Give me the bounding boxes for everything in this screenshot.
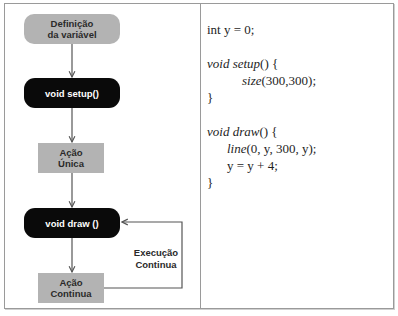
node-acao-continua-line2: Continua — [50, 288, 91, 299]
node-acao-unica-line2: Única — [58, 158, 84, 169]
code-line: } — [207, 174, 316, 191]
code-token: y = y + 4; — [227, 158, 278, 173]
code-token: (300,300); — [262, 73, 317, 88]
code-line: int y = 0; — [207, 21, 316, 38]
node-acao-unica-line1: Ação — [58, 147, 84, 158]
node-void-draw: void draw () — [24, 208, 120, 238]
node-definicao-line1: Definição — [47, 18, 96, 29]
code-line: size(300,300); — [207, 72, 316, 89]
node-draw-label: void draw () — [45, 218, 98, 229]
node-definicao-variavel: Definição da variável — [24, 14, 120, 44]
loop-label: Execução Continua — [128, 247, 184, 271]
code-token: line — [227, 141, 247, 156]
code-line: y = y + 4; — [207, 157, 316, 174]
code-listing: int y = 0;void setup() {size(300,300);}v… — [207, 21, 316, 191]
code-line: void draw() { — [207, 123, 316, 140]
node-void-setup: void setup() — [24, 78, 120, 108]
code-token: void setup — [207, 56, 260, 71]
code-token: } — [207, 175, 213, 190]
code-token: } — [207, 90, 213, 105]
code-line: void setup() { — [207, 55, 316, 72]
node-acao-unica: Ação Única — [38, 143, 104, 173]
code-line — [207, 38, 316, 55]
code-line: } — [207, 89, 316, 106]
code-token: (0, y, 300, y); — [247, 141, 317, 156]
code-token: () { — [260, 56, 278, 71]
code-line — [207, 106, 316, 123]
code-token: () { — [259, 124, 277, 139]
loop-label-line2: Continua — [128, 259, 184, 271]
code-line: line(0, y, 300, y); — [207, 140, 316, 157]
node-acao-continua-line1: Ação — [50, 277, 91, 288]
code-token: void draw — [207, 124, 259, 139]
node-acao-continua: Ação Continua — [38, 273, 104, 303]
code-token: size — [242, 73, 262, 88]
loop-label-line1: Execução — [128, 247, 184, 259]
node-definicao-line2: da variável — [47, 29, 96, 40]
node-setup-label: void setup() — [45, 88, 99, 99]
code-token: int y = 0; — [207, 22, 254, 37]
